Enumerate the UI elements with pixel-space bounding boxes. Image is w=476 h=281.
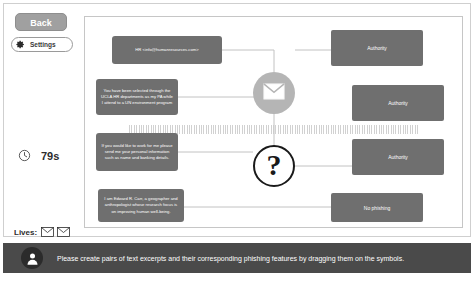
back-button[interactable]: Back — [15, 13, 67, 31]
feature-card[interactable]: No phishing — [331, 193, 423, 222]
question-drop-symbol[interactable]: ? — [253, 145, 295, 187]
settings-button[interactable]: Settings — [11, 37, 73, 52]
excerpt-card[interactable]: You have been selected through the UCLA … — [96, 79, 178, 115]
settings-button-label: Settings — [30, 41, 56, 48]
feature-label: Authority — [388, 100, 408, 106]
feature-card[interactable]: Authority — [352, 139, 444, 175]
game-board: HR <info@humanresources.com> You have be… — [84, 16, 463, 228]
question-mark-icon: ? — [267, 150, 282, 180]
envelope-icon — [57, 223, 70, 241]
hud-panel: Back Settings 79s Lives: — [4, 4, 78, 238]
envelope-icon — [41, 223, 54, 241]
excerpt-card[interactable]: I am Edward R. Carr, a geographer and an… — [98, 189, 184, 222]
excerpt-text: HR <info@humanresources.com> — [135, 47, 198, 53]
excerpt-text: If you would like to work for me please … — [101, 143, 173, 161]
instruction-text: Please create pairs of text excerpts and… — [57, 255, 404, 262]
feature-label: Authority — [367, 45, 387, 51]
timer: 79s — [18, 149, 59, 162]
timer-value: 79s — [41, 150, 59, 162]
envelope-icon — [263, 83, 285, 104]
gear-icon — [16, 40, 25, 49]
envelope-drop-symbol[interactable] — [253, 72, 295, 114]
avatar-icon — [21, 247, 43, 269]
back-button-label: Back — [30, 18, 52, 28]
clock-icon — [18, 149, 31, 162]
excerpt-text: You have been selected through the UCLA … — [101, 88, 173, 106]
feature-label: No phishing — [364, 205, 390, 211]
feature-card[interactable]: Authority — [352, 85, 444, 121]
instruction-bar: Please create pairs of text excerpts and… — [3, 243, 471, 273]
excerpt-card[interactable]: If you would like to work for me please … — [96, 133, 178, 171]
feature-label: Authority — [388, 154, 408, 160]
excerpt-text: I am Edward R. Carr, a geographer and an… — [103, 196, 179, 214]
feature-card[interactable]: Authority — [331, 30, 423, 66]
lives-label: Lives: — [14, 228, 37, 237]
game-frame: Back Settings 79s Lives: — [3, 3, 471, 237]
excerpt-card[interactable]: HR <info@humanresources.com> — [112, 36, 222, 64]
lives-indicator: Lives: — [14, 223, 73, 241]
